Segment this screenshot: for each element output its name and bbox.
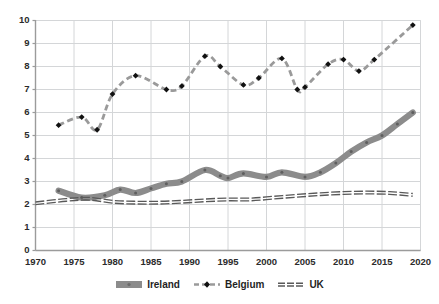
x-tick-label-2020: 2020 [401, 256, 439, 267]
y-tick-label-9: 9 [24, 37, 29, 48]
x-tick-label-1995: 1995 [208, 256, 248, 267]
legend-label-uk: UK [309, 279, 323, 290]
legend-swatch-uk [277, 279, 305, 290]
gridlines [36, 21, 421, 251]
y-tick-label-4: 4 [24, 152, 29, 163]
legend-swatch-ireland [115, 279, 143, 290]
chart-legend: Ireland Belgium UK [0, 279, 439, 290]
series-ireland [57, 111, 414, 199]
y-tick-label-10: 10 [19, 14, 30, 25]
legend-label-ireland: Ireland [147, 279, 180, 290]
y-tick-label-2: 2 [24, 198, 29, 209]
y-tick-label-5: 5 [24, 129, 29, 140]
x-tick-label-1990: 1990 [170, 256, 210, 267]
legend-item-belgium[interactable]: Belgium [193, 279, 264, 290]
y-tick-label-7: 7 [24, 83, 29, 94]
x-tick-label-1975: 1975 [54, 256, 94, 267]
x-tick-label-2015: 2015 [362, 256, 402, 267]
legend-item-ireland[interactable]: Ireland [115, 279, 180, 290]
x-tick-label-2005: 2005 [285, 256, 325, 267]
legend-swatch-belgium [193, 279, 221, 290]
x-tick-label-1985: 1985 [131, 256, 171, 267]
y-tick-label-0: 0 [24, 244, 29, 255]
x-tick-label-1970: 1970 [16, 256, 56, 267]
series-belgium [56, 22, 416, 132]
legend-label-belgium: Belgium [225, 279, 264, 290]
x-tick-label-2000: 2000 [247, 256, 287, 267]
legend-item-uk[interactable]: UK [277, 279, 323, 290]
chart-container: 012345678910 197019751980198519901995200… [0, 0, 439, 304]
y-tick-label-8: 8 [24, 60, 29, 71]
y-tick-label-6: 6 [24, 106, 29, 117]
data-series [36, 22, 416, 205]
x-tick-label-1980: 1980 [93, 256, 133, 267]
y-tick-label-3: 3 [24, 175, 29, 186]
x-tick-label-2010: 2010 [324, 256, 364, 267]
y-tick-label-1: 1 [24, 221, 29, 232]
